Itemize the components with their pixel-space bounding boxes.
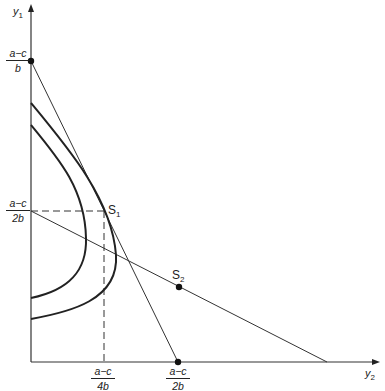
label-s1: S1 — [108, 204, 120, 219]
y-tick-a-c-over-2b: a−c2b — [6, 198, 30, 223]
x-tick-a-c-over-2b: a−c2b — [166, 366, 190, 391]
x-tick-a-c-over-4b: a−c4b — [91, 366, 115, 391]
y-tick-a-c-over-b: a−cb — [6, 48, 30, 73]
x-axis-label: y2 — [365, 368, 375, 382]
x-axis-arrow-icon — [372, 359, 380, 365]
point-s2 — [176, 284, 182, 290]
y-axis-arrow-icon — [28, 4, 34, 12]
label-s2: S2 — [172, 269, 184, 284]
diagram-canvas — [0, 0, 385, 391]
y-axis-label: y1 — [13, 6, 23, 20]
